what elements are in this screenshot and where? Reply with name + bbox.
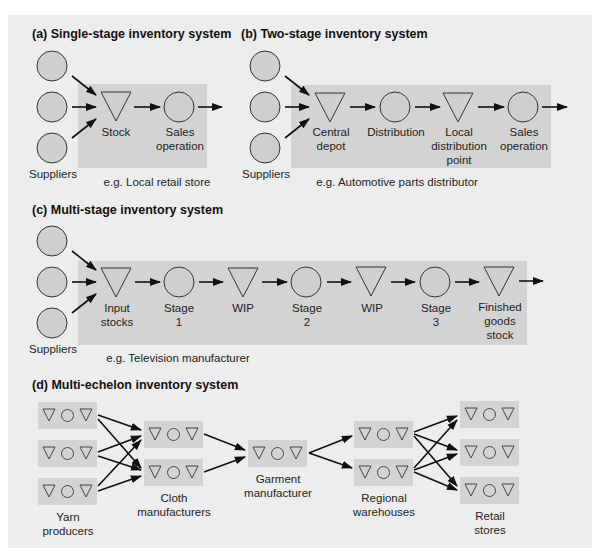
stage-3-label: 3 xyxy=(433,316,439,328)
stage-1-label: Stage xyxy=(164,302,194,314)
inventory-systems-diagram: (a) Single-stage inventory system Suppli… xyxy=(0,0,609,559)
garment-manufacturer-label: manufacturer xyxy=(244,487,312,499)
section-d-multi-echelon: (d) Multi-echelon inventory system xyxy=(32,378,519,537)
arrow-icon xyxy=(309,453,352,468)
stage-2-label: Stage xyxy=(292,302,322,314)
sales-operation-label: operation xyxy=(500,140,548,152)
garment-manufacturer-unit xyxy=(248,440,307,467)
section-b-two-stage: (b) Two-stage inventory system Suppliers… xyxy=(241,27,567,188)
supplier-circle-icon xyxy=(250,133,280,163)
yarn-producer-unit xyxy=(38,402,97,429)
retail-stores-label: stores xyxy=(474,524,506,536)
arrow-icon xyxy=(414,416,457,432)
section-b-title: (b) Two-stage inventory system xyxy=(241,27,428,41)
yarn-producer-unit xyxy=(38,440,97,467)
cloth-manufacturer-unit xyxy=(144,421,203,448)
central-depot-label: Central xyxy=(312,126,349,138)
supplier-circle-icon xyxy=(250,51,280,81)
finished-goods-label: goods xyxy=(484,315,516,327)
arrow-icon xyxy=(204,434,245,450)
local-distribution-label: Local xyxy=(445,126,473,138)
stock-label: Stock xyxy=(102,126,131,138)
finished-goods-label: stock xyxy=(487,329,514,341)
section-c-example: e.g. Television manufacturer xyxy=(106,352,250,364)
section-a-single-stage: (a) Single-stage inventory system Suppli… xyxy=(29,27,231,188)
distribution-circle-icon xyxy=(380,92,410,122)
arrow-icon xyxy=(98,436,141,452)
arrow-icon xyxy=(98,440,141,486)
local-distribution-label: point xyxy=(447,154,473,166)
supplier-circle-icon xyxy=(37,51,67,81)
arrow-icon xyxy=(309,436,352,453)
stage-1-label: 1 xyxy=(176,316,182,328)
retail-store-unit xyxy=(460,477,519,504)
regional-warehouse-unit xyxy=(354,421,413,448)
supplier-circle-icon xyxy=(37,92,67,122)
arrow-icon xyxy=(414,472,457,490)
supplier-circle-icon xyxy=(37,226,67,256)
stage-1-circle-icon xyxy=(164,267,194,297)
suppliers-label: Suppliers xyxy=(29,168,77,180)
input-stocks-label: stocks xyxy=(101,316,134,328)
section-a-example: e.g. Local retail store xyxy=(104,176,211,188)
supplier-circle-icon xyxy=(37,308,67,338)
yarn-producers-label: producers xyxy=(42,525,93,537)
section-b-example: e.g. Automotive parts distributor xyxy=(316,176,478,188)
wip-label: WIP xyxy=(361,302,383,314)
cloth-manufacturers-label: Cloth xyxy=(161,492,188,504)
stage-3-label: Stage xyxy=(421,302,451,314)
arrow-icon xyxy=(98,415,141,430)
garment-manufacturer-label: Garment xyxy=(256,473,302,485)
section-a-title: (a) Single-stage inventory system xyxy=(32,27,231,41)
stage-2-circle-icon xyxy=(291,267,321,297)
arrow-icon xyxy=(204,457,245,472)
yarn-producer-unit xyxy=(38,478,97,505)
yarn-producers-label: Yarn xyxy=(56,511,79,523)
distribution-label: Distribution xyxy=(367,126,425,138)
arrow-icon xyxy=(414,434,457,450)
input-stocks-label: Input xyxy=(104,302,130,314)
suppliers-label: Suppliers xyxy=(242,168,290,180)
wip-label: WIP xyxy=(232,302,254,314)
regional-warehouse-unit xyxy=(354,459,413,486)
section-c-title: (c) Multi-stage inventory system xyxy=(32,203,223,217)
cloth-manufacturer-unit xyxy=(144,459,203,486)
sales-circle-icon xyxy=(164,92,194,122)
operation-label: operation xyxy=(156,140,204,152)
sales-label: Sales xyxy=(166,126,195,138)
sales-operation-label: Sales xyxy=(510,126,539,138)
supplier-circle-icon xyxy=(250,92,280,122)
arrow-icon xyxy=(414,454,457,470)
finished-goods-label: Finished xyxy=(478,301,521,313)
retail-store-unit xyxy=(460,401,519,428)
retail-store-unit xyxy=(460,439,519,466)
stage-2-label: 2 xyxy=(304,316,310,328)
regional-warehouses-label: Regional xyxy=(361,492,406,504)
supplier-circle-icon xyxy=(37,133,67,163)
supplier-circle-icon xyxy=(37,267,67,297)
retail-stores-label: Retail xyxy=(475,510,504,522)
section-c-multi-stage: (c) Multi-stage inventory system Supplie… xyxy=(29,203,543,364)
stage-3-circle-icon xyxy=(420,267,450,297)
suppliers-label: Suppliers xyxy=(29,343,77,355)
central-depot-label: depot xyxy=(317,140,347,152)
cloth-manufacturers-label: manufacturers xyxy=(137,506,211,518)
regional-warehouses-label: warehouses xyxy=(352,506,415,518)
local-distribution-label: distribution xyxy=(431,140,487,152)
section-d-title: (d) Multi-echelon inventory system xyxy=(32,378,238,392)
sales-circle-icon xyxy=(508,92,538,122)
